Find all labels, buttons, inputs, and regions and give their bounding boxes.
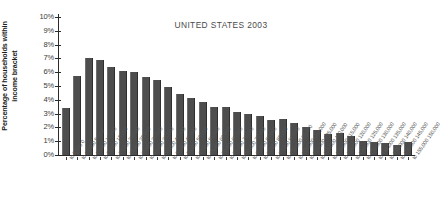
y-axis-tick-label: 8% — [44, 41, 54, 49]
x-axis-tick-mark — [363, 157, 364, 160]
y-axis-tick-label: 7% — [44, 54, 54, 62]
y-axis-tick-label: 1% — [44, 137, 54, 145]
x-axis-tick-mark — [340, 157, 341, 160]
x-axis-tick-mark — [237, 157, 238, 160]
x-axis-tick-mark — [77, 157, 78, 160]
y-axis-tick-label: 6% — [44, 68, 54, 76]
x-axis-tick-mark — [191, 157, 192, 160]
x-axis-tick-mark — [351, 157, 352, 160]
x-axis-tick-mark — [111, 157, 112, 160]
x-axis-tick-mark — [157, 157, 158, 160]
x-axis-tick-mark — [385, 157, 386, 160]
bar — [62, 108, 70, 155]
x-axis-tick-mark — [283, 157, 284, 160]
y-axis-tick-label: 2% — [44, 123, 54, 131]
x-axis-tick-mark — [271, 157, 272, 160]
x-axis-tick-mark — [134, 157, 135, 160]
x-axis-tick-mark — [317, 157, 318, 160]
x-axis-tick-mark — [306, 157, 307, 160]
x-axis-tick-mark — [294, 157, 295, 160]
x-axis-tick-mark — [214, 157, 215, 160]
x-axis-tick-mark — [374, 157, 375, 160]
x-axis-tick-labels: 0 to 5,0005,000 to 10,00010,000 to 15,00… — [60, 157, 420, 222]
x-axis-tick-mark — [248, 157, 249, 160]
y-axis-tick-label: 4% — [44, 96, 54, 104]
y-axis-tick-label: 5% — [44, 82, 54, 90]
x-axis-tick-mark — [146, 157, 147, 160]
x-axis-tick-mark — [397, 157, 398, 160]
x-axis-tick-mark — [66, 157, 67, 160]
x-axis-tick-mark — [408, 157, 409, 160]
x-axis-tick-mark — [100, 157, 101, 160]
x-axis-tick-mark — [180, 157, 181, 160]
x-axis-tick-mark — [123, 157, 124, 160]
y-axis-tick-label: 3% — [44, 110, 54, 118]
y-axis-tick-label: 0% — [44, 151, 54, 159]
y-axis-title-line1: Percentage of households within — [0, 0, 9, 152]
x-axis-tick-mark — [328, 157, 329, 160]
x-axis-tick-mark — [168, 157, 169, 160]
x-axis-tick-mark — [226, 157, 227, 160]
x-axis-tick-mark — [89, 157, 90, 160]
x-axis-tick-mark — [260, 157, 261, 160]
x-axis-tick-mark — [203, 157, 204, 160]
